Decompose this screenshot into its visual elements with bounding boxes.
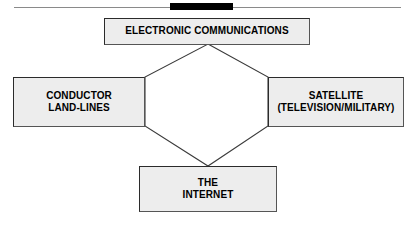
node-label-conductor-land-lines: CONDUCTOR LAND-LINES bbox=[46, 90, 112, 114]
node-the-internet[interactable]: THE INTERNET bbox=[139, 166, 277, 212]
node-label-satellite: SATELLITE (TELEVISION/MILITARY) bbox=[277, 90, 394, 114]
node-label-the-internet: THE INTERNET bbox=[183, 177, 234, 201]
diagram-figure: ELECTRONIC COMMUNICATIONS CONDUCTOR LAND… bbox=[0, 0, 413, 226]
hexagon-outline bbox=[145, 44, 268, 166]
node-label-electronic-communications: ELECTRONIC COMMUNICATIONS bbox=[125, 25, 288, 37]
node-satellite[interactable]: SATELLITE (TELEVISION/MILITARY) bbox=[268, 77, 404, 127]
node-electronic-communications[interactable]: ELECTRONIC COMMUNICATIONS bbox=[104, 18, 310, 45]
node-conductor-land-lines[interactable]: CONDUCTOR LAND-LINES bbox=[13, 77, 145, 127]
